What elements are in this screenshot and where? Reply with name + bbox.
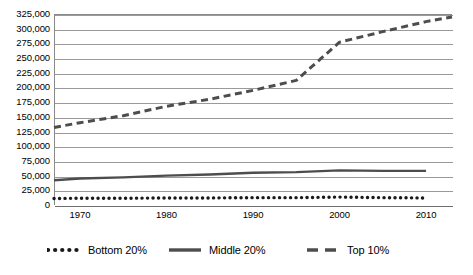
y-axis-tick-label: 325,000 [0, 9, 50, 19]
y-axis-tick-label: 200,000 [0, 82, 50, 92]
plot-area [54, 14, 452, 205]
gridline-325000 [55, 15, 453, 16]
gridline-200000 [55, 88, 453, 89]
x-axis-tick-label: 2000 [320, 209, 360, 221]
y-axis-tick-label: 125,000 [0, 127, 50, 137]
legend-label: Middle 20% [209, 244, 265, 257]
y-axis-tick-label: 225,000 [0, 68, 50, 78]
gridline-300000 [55, 30, 453, 31]
gridline-75000 [55, 162, 453, 163]
y-axis-tick-label: 50,000 [0, 171, 50, 181]
gridline-250000 [55, 59, 453, 60]
x-axis-label-group: 19701980199020002010 [0, 209, 473, 225]
legend-swatch-dotted-icon [47, 244, 81, 256]
gridline-125000 [55, 133, 453, 134]
gridline-25000 [55, 191, 453, 192]
y-axis-label-group: 025,00050,00075,000100,000125,000150,000… [0, 0, 50, 275]
y-axis-tick-label: 275,000 [0, 38, 50, 48]
legend-item-top-10[interactable]: Top 10% [306, 240, 389, 260]
y-axis-tick-label: 100,000 [0, 141, 50, 151]
gridline-100000 [55, 147, 453, 148]
x-axis-tick-label: 1980 [146, 209, 186, 221]
gridline-225000 [55, 74, 453, 75]
gridline-0 [55, 206, 453, 207]
legend-item-bottom-20[interactable]: Bottom 20% [47, 240, 147, 260]
y-axis-tick-label: 250,000 [0, 53, 50, 63]
income-distribution-chart: 025,00050,00075,000100,000125,000150,000… [0, 0, 473, 275]
legend-label: Bottom 20% [88, 244, 147, 257]
gridline-150000 [55, 118, 453, 119]
legend-swatch-dashed-icon [306, 244, 340, 256]
gridline-50000 [55, 177, 453, 178]
gridline-175000 [55, 103, 453, 104]
x-axis-tick-label: 2010 [406, 209, 446, 221]
y-axis-tick-label: 25,000 [0, 185, 50, 195]
legend-swatch-solid-icon [168, 244, 202, 256]
y-axis-tick-label: 175,000 [0, 97, 50, 107]
y-axis-tick-label: 150,000 [0, 112, 50, 122]
legend-label: Top 10% [347, 244, 389, 257]
y-axis-tick-label: 300,000 [0, 24, 50, 34]
legend-item-middle-20[interactable]: Middle 20% [168, 240, 265, 260]
x-axis-tick-label: 1990 [233, 209, 273, 221]
chart-legend: Bottom 20%Middle 20%Top 10% [0, 240, 473, 264]
gridline-275000 [55, 44, 453, 45]
y-axis-tick-label: 75,000 [0, 156, 50, 166]
x-axis-tick-label: 1970 [60, 209, 100, 221]
